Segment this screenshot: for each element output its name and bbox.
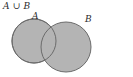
set-b-circle — [41, 22, 91, 72]
venn-diagram-figure: A ∪ B A B — [0, 0, 133, 77]
venn-diagram-canvas — [0, 0, 133, 77]
union-caption: A ∪ B — [3, 2, 30, 11]
set-b-label: B — [85, 15, 92, 24]
set-a-label: A — [32, 12, 39, 21]
